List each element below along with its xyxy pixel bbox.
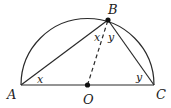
angle-label-c: y bbox=[135, 71, 143, 84]
label-b: B bbox=[107, 2, 118, 17]
dashed-radius-ob bbox=[88, 20, 109, 85]
segment-ab bbox=[21, 20, 108, 85]
label-a: A bbox=[6, 87, 16, 102]
geometry-diagram: A B C O x x y y bbox=[0, 0, 171, 108]
label-c: C bbox=[156, 87, 166, 102]
angle-label-b-right: y bbox=[107, 31, 115, 44]
angle-label-a: x bbox=[37, 73, 44, 86]
point-b-dot bbox=[105, 17, 110, 22]
point-o-dot bbox=[85, 82, 90, 87]
label-o: O bbox=[83, 92, 94, 107]
angle-label-b-left: x bbox=[94, 31, 101, 44]
segment-bc bbox=[108, 20, 154, 85]
